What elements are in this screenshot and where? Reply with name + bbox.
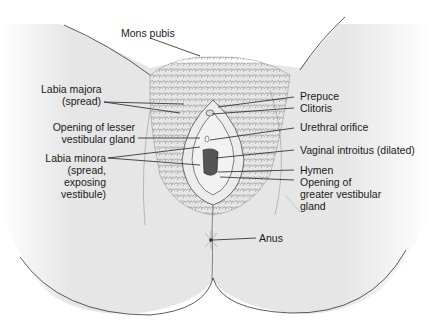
label-mons-pubis: Mons pubis	[121, 27, 175, 39]
label-prepuce: Prepuce	[300, 90, 339, 102]
urethral-orifice	[205, 136, 209, 142]
label-hymen: Hymen	[300, 164, 333, 176]
label-urethral-orifice: Urethral orifice	[300, 121, 368, 133]
label-vaginal-introitus: Vaginal introitus (dilated)	[300, 144, 415, 156]
label-greater-vestibular-gland: Opening of greater vestibular gland	[300, 176, 381, 212]
label-lesser-vestibular-gland: Opening of lesser vestibular gland	[35, 121, 135, 145]
label-clitoris: Clitoris	[300, 102, 332, 114]
label-labia-minora: Labia minora (spread, exposing vestibule…	[35, 152, 106, 200]
clitoris	[206, 110, 214, 116]
right-fade	[345, 0, 431, 335]
vaginal-introitus	[203, 149, 218, 175]
label-labia-majora: Labia majora (spread)	[41, 83, 101, 107]
label-anus: Anus	[259, 232, 283, 244]
